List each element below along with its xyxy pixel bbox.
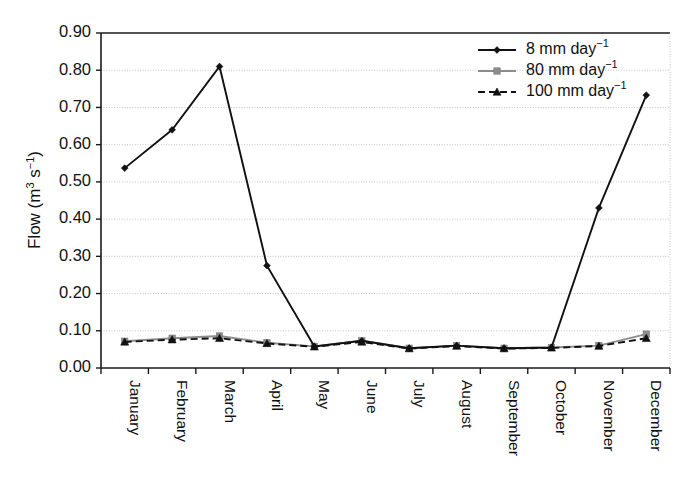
y-tick-label: 0.60	[59, 134, 91, 152]
y-axis-title-exp2: −1	[24, 157, 36, 170]
legend-swatch-marker	[494, 68, 500, 74]
y-axis-title-prefix: Flow (m	[25, 189, 44, 249]
y-tick-label: 0.40	[59, 208, 91, 226]
y-tick-label: 0.00	[59, 357, 91, 375]
x-tick-label-june: June	[364, 380, 381, 414]
y-tick-label: 0.10	[59, 320, 91, 338]
x-tick-label-february: February	[174, 380, 191, 442]
x-tick-label-may: May	[316, 380, 333, 410]
flow-line-chart: 0.000.100.200.300.400.500.600.700.800.90…	[0, 0, 697, 487]
y-tick-label: 0.80	[59, 60, 91, 78]
x-tick-label-october: October	[553, 380, 570, 435]
x-tick-label-march: March	[222, 380, 239, 423]
y-tick-label: 0.70	[59, 97, 91, 115]
x-tick-label-august: August	[459, 380, 476, 429]
legend-label: 80 mm day−1	[526, 58, 618, 78]
x-tick-label-september: September	[506, 380, 523, 456]
x-tick-label-january: January	[127, 380, 144, 435]
x-tick-label-april: April	[269, 380, 286, 411]
y-tick-label: 0.20	[59, 283, 91, 301]
chart-figure: 0.000.100.200.300.400.500.600.700.800.90…	[0, 0, 697, 487]
y-axis-title-suffix: )	[25, 151, 44, 157]
y-tick-label: 0.90	[59, 22, 91, 40]
x-tick-label-december: December	[648, 380, 665, 452]
y-tick-label: 0.30	[59, 246, 91, 264]
x-tick-label-november: November	[601, 380, 618, 452]
y-tick-label: 0.50	[59, 171, 91, 189]
legend-label: 100 mm day−1	[526, 79, 627, 99]
x-tick-label-july: July	[411, 380, 428, 408]
y-axis-title-mid: s	[25, 169, 44, 182]
